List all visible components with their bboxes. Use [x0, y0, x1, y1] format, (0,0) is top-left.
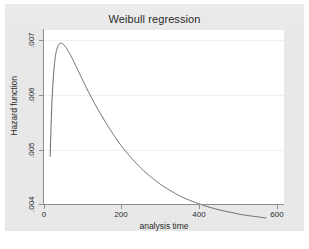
y-tick-label-007: .007 [27, 30, 36, 51]
chart-title: Weibull regression [0, 13, 309, 25]
x-tick-mark-600 [277, 205, 278, 209]
plot-region [44, 30, 284, 204]
x-tick-mark-400 [199, 205, 200, 209]
y-tick-label-004: .004 [27, 194, 36, 215]
x-tick-label-200: 200 [114, 210, 127, 219]
y-tick-mark-006 [39, 95, 43, 96]
y-tick-label-006: .006 [27, 85, 36, 106]
y-tick-label-005: .005 [27, 140, 36, 161]
x-axis-title: analysis time [44, 221, 284, 231]
y-tick-mark-007 [39, 40, 43, 41]
x-tick-label-600: 600 [270, 210, 283, 219]
x-tick-label-400: 400 [192, 210, 205, 219]
y-axis-line [43, 29, 44, 205]
screenshot-root: Weibull regression .007 .006 .005 .004 H… [0, 0, 309, 249]
y-tick-mark-004 [39, 204, 43, 205]
x-tick-mark-0 [44, 205, 45, 209]
y-axis-title: Hazard function [9, 76, 19, 136]
hazard-function-curve [44, 30, 284, 204]
x-axis-line [43, 204, 284, 205]
x-tick-label-0: 0 [42, 210, 46, 219]
y-tick-mark-005 [39, 150, 43, 151]
x-tick-mark-200 [121, 205, 122, 209]
